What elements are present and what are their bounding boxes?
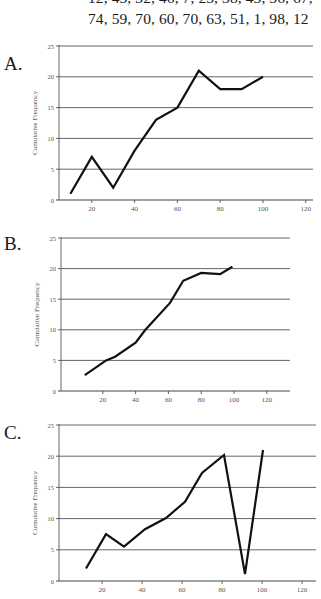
x-tick-label: 40	[139, 586, 147, 594]
y-tick-label: 10	[48, 515, 55, 522]
x-tick-label: 100	[257, 586, 268, 594]
x-tick-label: 20	[99, 586, 107, 594]
y-tick-label: 20	[48, 453, 55, 460]
y-tick-label: 15	[48, 484, 55, 491]
y-tick-label: 25	[48, 422, 55, 429]
y-axis-label: Cumulative Frequency	[31, 471, 39, 535]
cumulative-frequency-line	[86, 450, 263, 574]
y-tick-label: 0	[51, 578, 54, 585]
x-tick-label: 80	[219, 586, 227, 594]
x-tick-label: 120	[297, 586, 308, 594]
x-tick-label: 60	[179, 586, 187, 594]
y-tick-label: 5	[51, 546, 54, 553]
chart-c: 051015202520406080100120Cumulative Frequ…	[0, 0, 321, 599]
